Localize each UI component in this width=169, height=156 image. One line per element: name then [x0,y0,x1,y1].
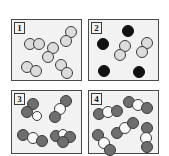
atom-light [136,46,148,58]
atom-light [114,49,126,61]
panel-number-label: 4 [91,93,102,105]
atom-dark [133,66,145,78]
atom-mid [141,141,153,153]
particle-diagram-figure: 1234 [0,0,169,156]
atom-white [32,111,42,121]
atom-light [30,65,42,77]
atom-mid [111,105,123,117]
atom-mid [127,117,139,129]
panel-3: 3 [11,90,82,154]
atom-mid [141,102,153,114]
atom-light [42,51,54,63]
atom-dark [122,25,134,37]
atom-mid [36,135,48,147]
atom-dark [97,38,109,50]
panel-1: 1 [11,19,82,81]
atom-dark [98,65,110,77]
panel-number-label: 1 [14,22,25,34]
atom-mid [49,111,61,123]
atom-mid [104,144,116,156]
atom-light [60,35,72,47]
panel-4: 4 [88,90,159,154]
panel-number-label: 3 [14,93,25,105]
atom-light [33,38,45,50]
panel-2: 2 [88,19,159,81]
atom-light [61,67,73,79]
atom-mid [57,136,69,148]
panel-number-label: 2 [91,22,102,34]
